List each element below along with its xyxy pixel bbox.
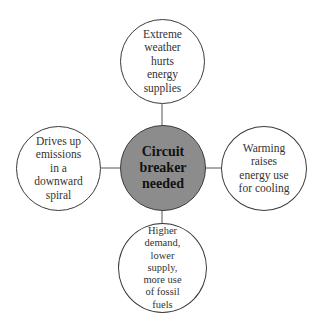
node-label: Higher demand, lower supply, more use of… [143,225,181,310]
node-label: Warming raises energy use for cooling [239,142,290,196]
center-label: Circuit breaker needed [139,144,186,192]
node-center-circuit-breaker: Circuit breaker needed [120,125,206,211]
node-extreme-weather: Extreme weather hurts energy supplies [120,19,205,104]
cycle-diagram: Extreme weather hurts energy supplies Dr… [0,0,322,330]
node-label: Extreme weather hurts energy supplies [143,28,182,96]
node-warming-cooling: Warming raises energy use for cooling [221,126,307,211]
node-higher-demand: Higher demand, lower supply, more use of… [118,223,207,313]
node-label: Drives up emissions in a downward spiral [34,135,83,203]
node-drives-emissions: Drives up emissions in a downward spiral [16,126,101,211]
